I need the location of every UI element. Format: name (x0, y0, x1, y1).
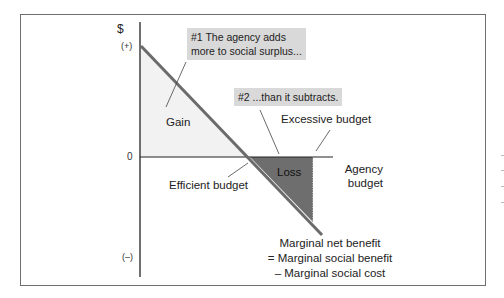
leader-excessive (316, 130, 330, 151)
y-axis-positive-label: (+) (121, 41, 132, 51)
curve-label-line1: Marginal net benefit (255, 236, 405, 251)
leader-efficient (228, 163, 248, 177)
efficient-budget-label: Efficient budget (169, 178, 248, 192)
callout-1-line1: #1 The agency adds (191, 30, 302, 44)
y-axis-zero-label: 0 (127, 151, 133, 162)
y-axis-symbol: $ (117, 22, 124, 36)
x-axis-label-line1: Agency (335, 162, 383, 176)
y-axis-negative-label: (–) (122, 252, 133, 262)
excessive-budget-label: Excessive budget (281, 112, 371, 126)
curve-label-line3: – Marginal social cost (255, 266, 405, 281)
callout-2-line1: #2 ...than it subtracts. (238, 90, 338, 104)
gain-label: Gain (166, 115, 190, 129)
loss-label: Loss (277, 165, 301, 179)
x-axis-label: Agency budget (335, 162, 383, 190)
x-axis-label-line2: budget (335, 176, 383, 190)
callout-1: #1 The agency adds more to social surplu… (187, 28, 306, 60)
callout-1-line2: more to social surplus... (191, 44, 302, 58)
leader-callout-2 (260, 110, 279, 154)
callout-2: #2 ...than it subtracts. (234, 88, 342, 106)
curve-label-line2: = Marginal social benefit (255, 251, 405, 266)
curve-label: Marginal net benefit = Marginal social b… (255, 236, 405, 281)
